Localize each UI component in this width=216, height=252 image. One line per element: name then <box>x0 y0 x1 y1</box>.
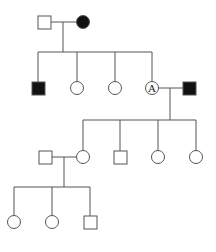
male-affected-II-5 <box>183 82 196 95</box>
female-unaffected-II-3 <box>109 82 122 95</box>
carrier-label: A <box>148 82 156 94</box>
female-unaffected-IV-1 <box>8 216 21 229</box>
female-unaffected-III-2 <box>77 151 90 164</box>
female-unaffected-IV-2 <box>46 216 59 229</box>
male-unaffected-I-1 <box>38 16 51 29</box>
male-affected-II-1 <box>32 82 45 95</box>
male-unaffected-III-3 <box>114 151 127 164</box>
male-unaffected-IV-3 <box>84 216 97 229</box>
individuals <box>8 16 203 230</box>
pedigree-diagram: A <box>0 0 216 252</box>
male-unaffected-III-1 <box>39 151 52 164</box>
connector-lines <box>14 22 196 216</box>
female-affected-I-2 <box>77 16 90 29</box>
female-unaffected-II-2 <box>71 82 84 95</box>
female-unaffected-III-4 <box>152 151 165 164</box>
female-unaffected-III-5 <box>190 151 203 164</box>
